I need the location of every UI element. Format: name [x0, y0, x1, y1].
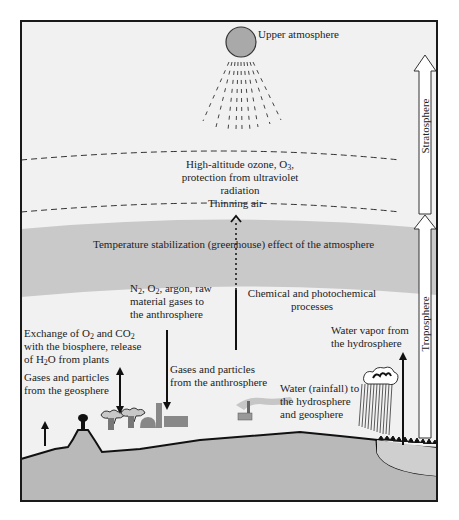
thinning-air-label: Thinning air [208, 197, 263, 210]
troposphere-label: Troposphere [419, 284, 431, 364]
ground [21, 430, 437, 501]
greenhouse-label: Temperature stabilization (greenhouse) e… [93, 238, 374, 251]
water-vapor-label: Water vapor from the hydrosphere [331, 324, 409, 350]
raw-materials-label: N2, O2, argon, raw material gases to the… [130, 282, 212, 321]
geosphere-gases-label: Gases and particles from the geosphere [24, 371, 109, 397]
factory-building-icon [164, 416, 188, 427]
sun-icon [226, 27, 256, 57]
atmosphere-diagram [0, 0, 459, 520]
rainfall-label: Water (rainfall) to the hydrosphere and … [280, 382, 359, 421]
biosphere-exchange-label: Exchange of O2 and CO2 with the biospher… [24, 327, 141, 366]
stratosphere-label: Stratosphere [419, 86, 431, 166]
greenhouse-band [21, 220, 437, 298]
upper-atmosphere-label: Upper atmosphere [258, 28, 339, 41]
chemical-processes-label: Chemical and photochemical processes [236, 287, 388, 313]
smoke-stack-icon [247, 401, 250, 413]
anthrosphere-gases-label: Gases and particles from the anthrospher… [170, 363, 267, 389]
ozone-label: High-altitude ozone, O3, protection from… [158, 158, 322, 197]
tower-building-icon [156, 403, 162, 428]
small-factory-icon [238, 413, 252, 420]
